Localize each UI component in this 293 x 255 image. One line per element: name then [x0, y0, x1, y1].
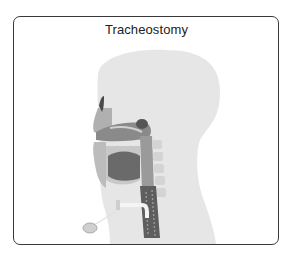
tongue: [108, 152, 140, 181]
pilot-balloon: [83, 223, 97, 233]
sinus-dark: [136, 119, 148, 129]
pharynx: [140, 136, 154, 190]
face-lower: [93, 142, 106, 188]
tube-flange: [116, 200, 120, 210]
tracheostomy-illustration: [0, 0, 293, 255]
